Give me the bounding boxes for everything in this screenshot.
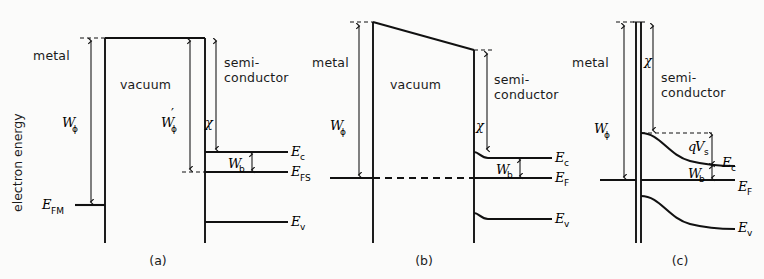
panel-b-conduction-label: E c xyxy=(554,150,569,168)
wphi-sub-c: ϕ xyxy=(604,130,610,140)
panel-c-semiconductor-label-line1: semi- xyxy=(661,70,696,85)
ef-sub-b: F xyxy=(564,178,569,188)
panel-a-work-function-prime-label: W ϕ ′ xyxy=(161,106,177,134)
panel-b-electron-affinity-label: χ xyxy=(475,118,485,133)
wphi-sub-b: ϕ xyxy=(340,127,346,137)
panel-a-metal-label: metal xyxy=(33,48,70,63)
panel-a-vacuum-label: vacuum xyxy=(120,77,171,92)
panel-a-valence-label: E v xyxy=(290,214,306,232)
wphip-prime-a: ′ xyxy=(171,106,174,121)
panel-c-conduction-label: E c xyxy=(721,155,736,173)
ec-sub-c: c xyxy=(731,163,736,173)
panel-a-fermi-metal-label: E FM xyxy=(41,197,64,216)
panel-b-conduction-band xyxy=(474,152,552,158)
panel-c: metal semi- conductor W ϕ χ q V s W b E … xyxy=(572,22,753,268)
ec-sub-b: c xyxy=(564,158,569,168)
panel-b-fermi-label: E F xyxy=(554,170,569,188)
panel-c-electron-affinity-label: χ xyxy=(643,53,653,68)
wb-sub-c: b xyxy=(699,174,705,184)
panel-a-work-function-label: W ϕ xyxy=(62,115,78,134)
panel-a-conduction-label: E c xyxy=(290,144,305,162)
panel-c-valence-label: E v xyxy=(737,220,753,238)
panel-a: metal vacuum semi- conductor W ϕ W ϕ ′ χ… xyxy=(33,38,311,268)
panel-c-metal-label: metal xyxy=(572,55,609,70)
panel-b-valence-band xyxy=(474,213,552,219)
panel-c-fermi-label: E F xyxy=(737,179,752,197)
panel-a-caption: (a) xyxy=(149,253,166,268)
ev-sub-c: v xyxy=(747,228,753,238)
panel-a-semiconductor-label-line1: semi- xyxy=(224,55,259,70)
wb-sub-b: b xyxy=(507,170,513,180)
panel-c-barrier-label: W b xyxy=(688,166,705,184)
panel-b-vacuum-level xyxy=(373,22,474,50)
panel-a-electron-affinity-label: χ xyxy=(204,115,214,130)
ev-sub-b: v xyxy=(564,219,570,229)
panel-b-semiconductor-label-line2: conductor xyxy=(494,87,559,102)
panel-b-semiconductor-label-line1: semi- xyxy=(494,72,529,87)
panel-c-work-function-label: W ϕ xyxy=(594,121,610,140)
y-axis-label: electron energy xyxy=(10,113,25,212)
wphi-sub-a: ϕ xyxy=(72,124,78,134)
panel-b-metal-label: metal xyxy=(312,55,349,70)
panel-b-valence-label: E v xyxy=(554,211,570,229)
qvs-sub-c: s xyxy=(704,147,709,157)
panel-c-caption: (c) xyxy=(672,253,689,268)
panel-c-valence-band xyxy=(641,196,735,229)
ef-sub-c: F xyxy=(747,187,752,197)
panel-a-fermi-semiconductor-label: E FS xyxy=(290,164,311,183)
band-diagram-figure: electron energy metal vacuum semi- co xyxy=(0,0,764,279)
band-diagram-canvas: electron energy metal vacuum semi- co xyxy=(0,0,764,279)
ev-sub-a: v xyxy=(300,222,306,232)
panel-c-surface-potential-label: q V s xyxy=(688,139,709,157)
panel-a-semiconductor-label-line2: conductor xyxy=(224,70,289,85)
wphip-sub-a: ϕ xyxy=(171,124,177,134)
efm-sub-a: FM xyxy=(51,206,64,216)
panel-b-vacuum-label: vacuum xyxy=(390,77,441,92)
panel-c-semiconductor-label-line2: conductor xyxy=(661,85,726,100)
axis-label-text: electron energy xyxy=(10,113,25,212)
panel-b-caption: (b) xyxy=(415,253,433,268)
efs-sub-a: FS xyxy=(300,173,311,183)
ec-sub-a: c xyxy=(300,152,305,162)
panel-b: metal vacuum semi- conductor W ϕ χ W b E… xyxy=(312,22,570,268)
wb-sub-a: b xyxy=(239,164,245,174)
panel-b-work-function-label: W ϕ xyxy=(330,118,346,137)
